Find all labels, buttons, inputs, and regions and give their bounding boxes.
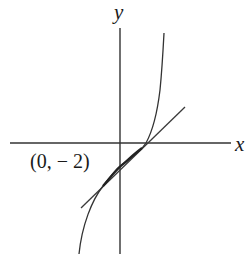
tangent-line: [81, 107, 185, 208]
x-axis-label: x: [235, 134, 244, 155]
y-axis-label: y: [114, 2, 123, 23]
function-graph-figure: y x (0, − 2): [0, 0, 246, 254]
graph-canvas: [0, 0, 246, 254]
point-label: (0, − 2): [30, 151, 90, 171]
